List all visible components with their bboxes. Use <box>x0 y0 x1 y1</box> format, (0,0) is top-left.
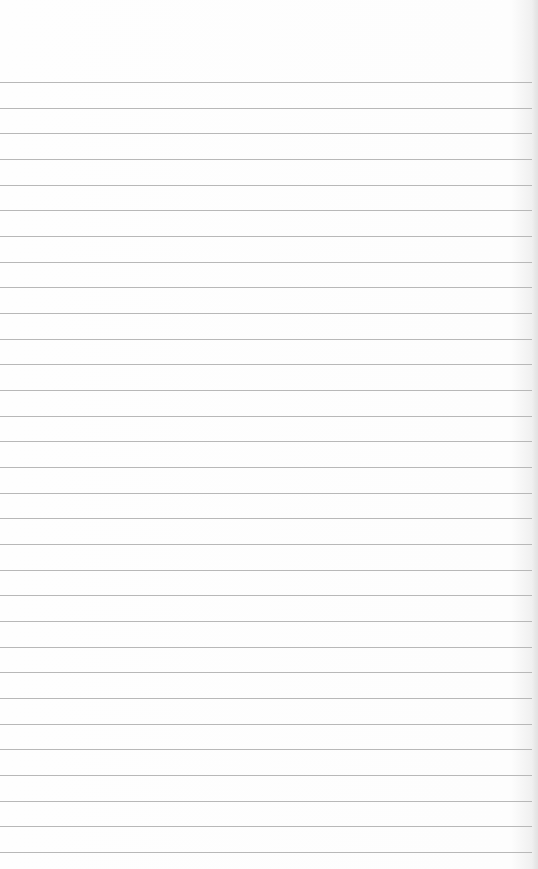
paper-edge-shadow <box>532 0 538 869</box>
ruled-line <box>0 287 532 288</box>
ruled-line <box>0 467 532 468</box>
ruled-line <box>0 647 532 648</box>
ruled-line <box>0 82 532 83</box>
ruled-line <box>0 185 532 186</box>
ruled-line <box>0 826 532 827</box>
ruled-line <box>0 672 532 673</box>
ruled-line <box>0 364 532 365</box>
ruled-line <box>0 416 532 417</box>
ruled-line <box>0 339 532 340</box>
ruled-line <box>0 852 532 853</box>
ruled-line <box>0 108 532 109</box>
ruled-line <box>0 801 532 802</box>
lined-paper-sheet <box>0 0 538 869</box>
ruled-line <box>0 724 532 725</box>
ruled-line <box>0 236 532 237</box>
ruled-line <box>0 621 532 622</box>
ruled-line <box>0 390 532 391</box>
ruled-line <box>0 698 532 699</box>
ruled-line <box>0 544 532 545</box>
ruled-line <box>0 493 532 494</box>
ruled-line <box>0 749 532 750</box>
ruled-line <box>0 262 532 263</box>
ruled-line <box>0 133 532 134</box>
ruled-line <box>0 775 532 776</box>
ruled-line <box>0 441 532 442</box>
ruled-line <box>0 518 532 519</box>
ruled-line <box>0 595 532 596</box>
ruled-line <box>0 570 532 571</box>
ruled-line <box>0 159 532 160</box>
ruled-line <box>0 210 532 211</box>
ruled-line <box>0 313 532 314</box>
